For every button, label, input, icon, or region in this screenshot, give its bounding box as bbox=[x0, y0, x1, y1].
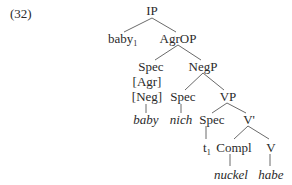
edge-agrop-negp bbox=[178, 45, 201, 60]
edge-negp-spec bbox=[185, 73, 203, 90]
example-number: (32) bbox=[10, 6, 32, 21]
node-spec-vp: Spec bbox=[199, 112, 225, 127]
node-spec-neg: Spec bbox=[170, 89, 196, 104]
leaf-baby: baby bbox=[133, 112, 159, 127]
edge-vbar-v bbox=[248, 126, 269, 139]
node-trace: t1 bbox=[203, 140, 211, 157]
edge-ip-baby bbox=[124, 18, 152, 32]
tree-nodes: IP baby1 AgrOP Spec [Agr] [Neg] NegP Spe… bbox=[108, 3, 284, 182]
node-vp: VP bbox=[220, 89, 237, 104]
feature-neg: [Neg] bbox=[132, 89, 162, 104]
node-agrop: AgrOP bbox=[160, 31, 197, 46]
edge-negp-vp bbox=[203, 73, 224, 90]
node-baby-moved: baby1 bbox=[108, 31, 137, 48]
node-compl: Compl bbox=[216, 140, 252, 155]
node-v: V bbox=[266, 140, 276, 155]
edge-vbar-compl bbox=[234, 126, 248, 139]
leaf-nich: nich bbox=[170, 112, 192, 127]
node-spec-agr: Spec bbox=[138, 59, 164, 74]
syntax-tree-diagram: (32) IP baby1 AgrOP Spec [Agr] [Neg] Neg… bbox=[0, 0, 292, 185]
node-negp: NegP bbox=[189, 59, 218, 74]
edge-ip-agrop bbox=[152, 18, 176, 32]
leaf-nuckel: nuckel bbox=[214, 167, 248, 182]
leaf-habe: habe bbox=[258, 167, 284, 182]
node-ip: IP bbox=[146, 3, 158, 18]
node-v-bar: V' bbox=[243, 112, 255, 127]
feature-agr: [Agr] bbox=[133, 74, 162, 89]
edge-agrop-spec bbox=[155, 45, 178, 60]
